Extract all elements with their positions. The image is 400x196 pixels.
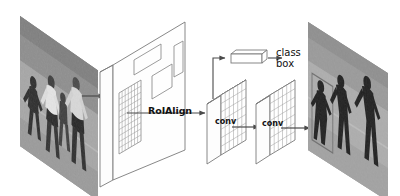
box-head-label: box (276, 59, 294, 70)
roialign-label: RoIAlign (148, 106, 192, 116)
conv2-label: conv (262, 120, 283, 128)
figure-canvas: RoIAlign class box conv conv (0, 0, 400, 196)
fc-vector-bar (231, 50, 267, 63)
class-head-label: class (276, 48, 301, 59)
diagram-svg (0, 0, 400, 196)
conv1-label: conv (215, 118, 236, 126)
input-image-plane (20, 16, 98, 196)
arrow-branch-to-fc (213, 58, 225, 99)
output-image-plane (308, 22, 388, 196)
